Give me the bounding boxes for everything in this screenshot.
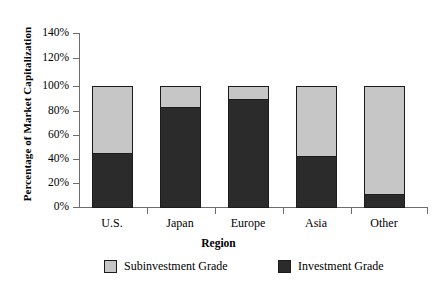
bar-europe	[228, 86, 269, 208]
legend-label-subinvestment: Subinvestment Grade	[124, 259, 228, 274]
bar-asia-investment	[297, 156, 336, 207]
x-tick-2	[215, 208, 216, 214]
x-tick-4	[351, 208, 352, 214]
bar-asia-subinvestment	[297, 87, 336, 156]
bar-europe-investment	[229, 99, 268, 207]
legend-item-investment: Investment Grade	[278, 259, 384, 274]
x-tick-3	[283, 208, 284, 214]
x-tick-label-other: Other	[349, 216, 419, 231]
y-tick-140	[73, 33, 79, 34]
y-tick-label-80: 80%	[9, 105, 69, 117]
bar-us	[92, 86, 133, 208]
bar-other	[364, 86, 405, 208]
x-tick-label-japan: Japan	[145, 216, 215, 231]
x-tick-label-us: U.S.	[77, 216, 147, 231]
legend-label-investment: Investment Grade	[298, 259, 384, 274]
y-axis-line	[79, 33, 80, 208]
y-tick-60	[73, 135, 79, 136]
x-tick-label-europe: Europe	[213, 216, 283, 231]
y-tick-label-0: 0%	[9, 201, 69, 213]
x-tick-label-asia: Asia	[281, 216, 351, 231]
bar-japan	[160, 86, 201, 208]
y-tick-120	[73, 58, 79, 59]
y-tick-label-120: 120%	[9, 52, 69, 64]
x-axis-title: Region	[0, 237, 437, 249]
bar-other-investment	[365, 194, 404, 207]
legend-item-subinvestment: Subinvestment Grade	[104, 259, 228, 274]
y-tick-100	[73, 86, 79, 87]
legend-swatch-investment-icon	[278, 260, 291, 273]
y-tick-label-140: 140%	[9, 27, 69, 39]
stacked-bar-chart: Percentage of Market Capitalization 140%…	[0, 0, 437, 297]
x-tick-5	[427, 208, 428, 214]
y-tick-0	[73, 207, 79, 208]
legend-swatch-subinvestment-icon	[104, 260, 117, 273]
y-tick-label-60: 60%	[9, 129, 69, 141]
y-tick-label-100: 100%	[9, 80, 69, 92]
bar-us-investment	[93, 153, 132, 207]
chart-legend: Subinvestment Grade Investment Grade	[0, 259, 437, 285]
y-tick-80	[73, 111, 79, 112]
x-tick-1	[147, 208, 148, 214]
bar-japan-investment	[161, 107, 200, 207]
bar-europe-subinvestment	[229, 87, 268, 99]
y-tick-40	[73, 159, 79, 160]
y-tick-20	[73, 183, 79, 184]
y-tick-label-40: 40%	[9, 153, 69, 165]
bar-other-subinvestment	[365, 87, 404, 194]
y-tick-label-20: 20%	[9, 177, 69, 189]
bar-japan-subinvestment	[161, 87, 200, 107]
bar-asia	[296, 86, 337, 208]
bar-us-subinvestment	[93, 87, 132, 153]
